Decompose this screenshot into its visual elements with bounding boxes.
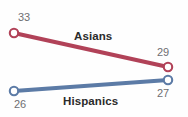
value-label-asians-start: 33 [18, 12, 30, 23]
series-asians-marker-end [164, 63, 172, 71]
series-hispanics-marker-end [164, 76, 172, 84]
series-asians-marker-start [10, 29, 18, 37]
series-label-asians: Asians [74, 31, 112, 43]
series-hispanics-line [14, 80, 168, 91]
slope-chart: Asians Hispanics 33 29 26 27 [0, 0, 188, 117]
value-label-hispanics-end: 27 [157, 88, 169, 99]
series-hispanics [10, 76, 172, 95]
series-hispanics-marker-start [10, 87, 18, 95]
value-label-hispanics-start: 26 [14, 99, 26, 110]
value-label-asians-end: 29 [157, 47, 169, 58]
series-label-hispanics: Hispanics [63, 96, 118, 108]
